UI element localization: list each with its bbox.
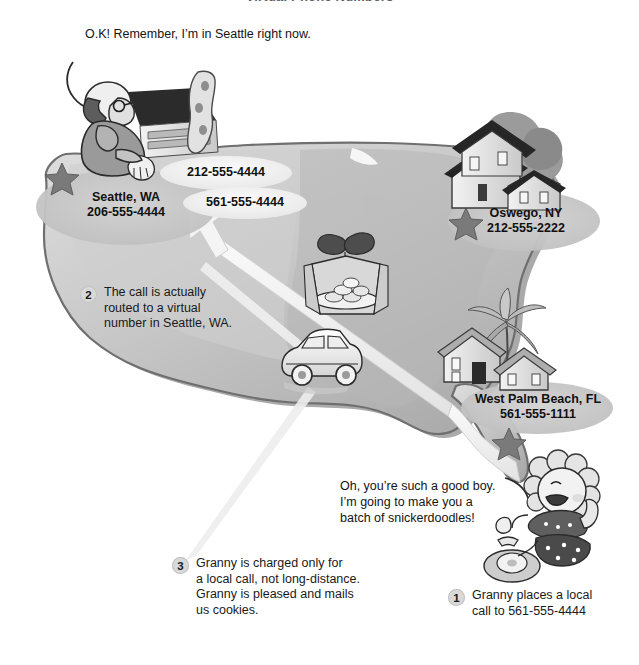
callout-seattle-number: 206-555-4444 [56,205,196,220]
man-speech-text: O.K! Remember, I’m in Seattle right now. [85,26,311,42]
figure-canvas: Virtual Phone Numbers [0,0,639,665]
callout-wpb-number: 561-555-1111 [450,407,626,422]
step-1-text: Granny places a local call to 561-555-44… [472,588,592,619]
step-2-text: The call is actually routed to a virtual… [104,285,232,332]
callout-oswego-city: Oswego, NY [456,206,596,221]
granny-speech-line-2: I’m going to make you a [340,494,495,510]
step-1-badge: 1 [448,589,465,606]
step-2: 2 The call is actually routed to a virtu… [80,285,270,332]
step-1: 1 Granny places a local call to 561-555-… [448,588,628,619]
callout-oswego-number: 212-555-2222 [456,221,596,236]
callout-oswego: Oswego, NY 212-555-2222 [456,206,596,236]
callout-seattle-city: Seattle, WA [56,190,196,205]
granny-speech-text: Oh, you’re such a good boy. I’m going to… [340,478,495,526]
callout-west-palm-beach: West Palm Beach, FL 561-555-1111 [450,392,626,422]
fl-number-pill: 561-555-4444 [183,195,307,209]
nyc-number-pill: 212-555-4444 [160,165,292,179]
granny-speech-line-1: Oh, you’re such a good boy. [340,478,495,494]
callout-seattle: Seattle, WA 206-555-4444 [56,190,196,220]
step-3-text: Granny is charged only for a local call,… [196,556,360,618]
two-story-house-icon [444,112,566,210]
step-3: 3 Granny is charged only for a local cal… [172,556,402,618]
step-3-badge: 3 [172,557,189,574]
callout-wpb-city: West Palm Beach, FL [450,392,626,407]
step-2-badge: 2 [80,286,97,303]
granny-speech-line-3: batch of snickerdoodles! [340,510,495,526]
